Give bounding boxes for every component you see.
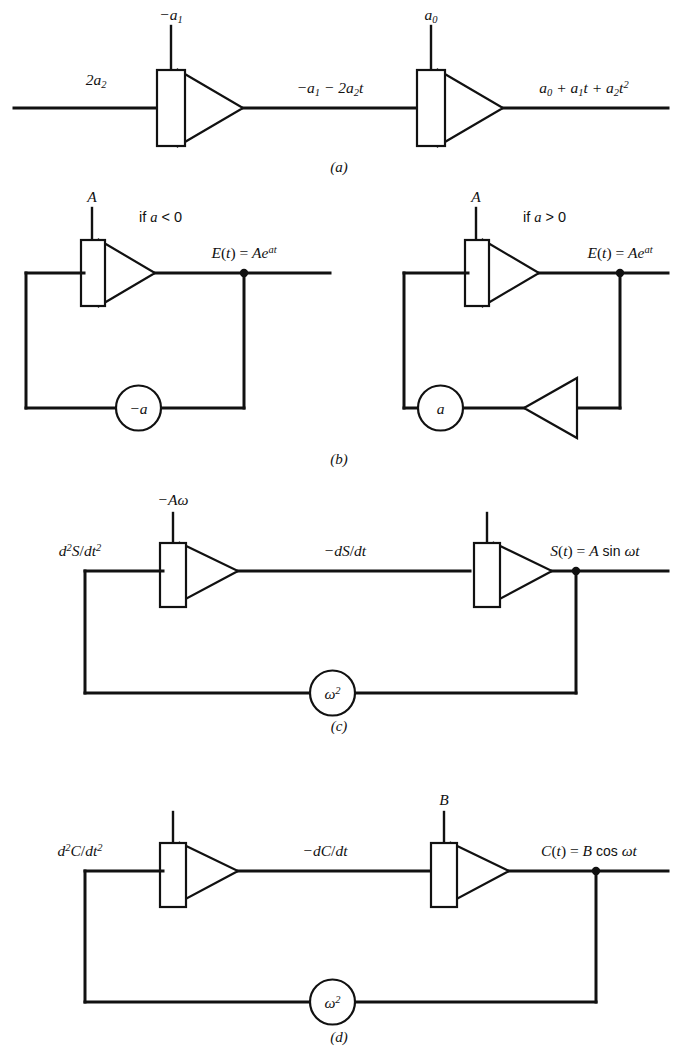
- panel-d-integrator-2: [431, 812, 509, 907]
- panel-d-caption: (d): [330, 1029, 348, 1046]
- panel-c-input-label: d2S/dt2: [59, 542, 102, 559]
- panel-a-integrator-2-triangle: [438, 70, 503, 146]
- panel-b-right-integrator-triangle: [483, 240, 539, 306]
- panel-b-left: −a A if a < 0 E(t) = Aeat: [26, 188, 330, 431]
- panel-c: ω2 −Aω d2S/dt2 −dS/dt S(t) = A sin ωt (c…: [59, 491, 668, 735]
- panel-b-left-integrator-triangle: [99, 240, 155, 306]
- panel-a-integrator-1: [157, 26, 243, 146]
- panel-b-left-ic-label: A: [86, 188, 97, 205]
- panel-b-right: a A if a > 0 E(t) = Aeat (b): [330, 188, 668, 468]
- panel-d-integrator-2-triangle: [451, 843, 509, 902]
- panel-b-right-condition: if a > 0: [523, 209, 566, 225]
- panel-b-left-coefficient-label: −a: [129, 400, 147, 417]
- panel-a-caption: (a): [330, 159, 348, 176]
- panel-a-integrator-2-body: [417, 70, 445, 146]
- panel-d-integrator-2-body: [431, 843, 457, 907]
- panel-d-output-label: C(t) = B cos ωt: [541, 842, 637, 860]
- panel-a-integrator-2: [417, 26, 503, 146]
- panel-a-integrator-1-body: [157, 70, 185, 146]
- panel-d-integrator-1-body: [160, 843, 186, 907]
- panel-a: 2a2 −a1 −a1 − 2a2t a0 a0 + a1t + a2t2 (a…: [14, 6, 668, 176]
- panel-d-integrator-1: [160, 812, 238, 907]
- panel-b-right-coefficient-label: a: [437, 400, 445, 417]
- analog-computer-diagram: 2a2 −a1 −a1 − 2a2t a0 a0 + a1t + a2t2 (a…: [0, 0, 679, 1058]
- panel-d-ic2-label: B: [439, 791, 449, 808]
- panel-a-intermediate-label: −a1 − 2a2t: [297, 79, 364, 98]
- panel-c-integrator-1-triangle: [180, 543, 238, 602]
- panel-c-integrator-2-triangle: [494, 543, 552, 602]
- panel-a-integrator-1-triangle: [178, 70, 243, 146]
- panel-c-intermediate-label: −dS/dt: [324, 542, 367, 559]
- panel-c-integrator-2: [474, 513, 552, 607]
- panel-b-right-output-label: E(t) = Aeat: [586, 244, 653, 262]
- panel-c-output-label: S(t) = A sin ωt: [550, 542, 640, 560]
- panel-d-intermediate-label: −dC/dt: [303, 842, 349, 859]
- panel-c-integrator-1: [160, 513, 238, 607]
- panel-c-ic1-label: −Aω: [158, 491, 189, 508]
- panel-b-left-condition: if a < 0: [139, 209, 182, 225]
- panel-b-left-output-label: E(t) = Aeat: [210, 244, 277, 262]
- panel-d-input-label: d2C/dt2: [58, 842, 104, 859]
- panel-a-input-label: 2a2: [86, 71, 108, 90]
- panel-c-caption: (c): [331, 718, 348, 735]
- panel-d: ω2 B d2C/dt2 −dC/dt C(t) = B cos ωt (d): [58, 791, 668, 1046]
- panel-b-caption: (b): [330, 451, 348, 468]
- panel-b-right-ic-label: A: [470, 188, 481, 205]
- panel-a-ic1-label: −a1: [159, 6, 182, 25]
- panel-b-right-inverter: [524, 378, 577, 438]
- panel-a-ic2-label: a0: [425, 6, 439, 25]
- panel-c-integrator-1-body: [160, 543, 186, 607]
- panel-a-output-label: a0 + a1t + a2t2: [539, 79, 629, 98]
- panel-d-integrator-1-triangle: [180, 843, 238, 902]
- panel-c-integrator-2-body: [474, 543, 500, 607]
